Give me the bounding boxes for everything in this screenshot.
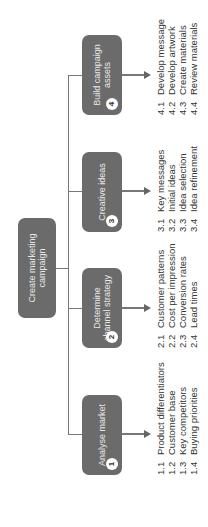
- task-node-2: Determine channel strategy 2: [82, 268, 122, 348]
- task-3-list: 3.1Key messages 3.2Initial ideas 3.3Idea…: [155, 146, 199, 232]
- list-item: 3.1Key messages: [155, 146, 166, 232]
- list-item: 4.3Create materials: [177, 19, 188, 115]
- list-item: 2.1Customer patterns: [155, 244, 166, 348]
- root-node: Create marketing campaign: [18, 218, 56, 318]
- list-item: 4.2Develop artwork: [166, 19, 177, 115]
- task-3-badge: 3: [106, 215, 118, 227]
- task-2-badge: 2: [106, 331, 118, 343]
- task-4-list: 4.1Develop message 4.2Develop artwork 4.…: [155, 19, 199, 115]
- list-item: 1.1Product differentiators: [155, 362, 166, 475]
- list-item: 4.1Develop message: [155, 19, 166, 115]
- task-3-arrow-line: [122, 190, 144, 192]
- list-item: 2.3Conversion rates: [177, 244, 188, 348]
- list-item: 2.2Cost per impression: [166, 244, 177, 348]
- task-node-3: Creative ideas 3: [82, 152, 122, 232]
- task-3-connector: [68, 191, 82, 192]
- bus-line: [68, 75, 69, 435]
- task-1-connector: [68, 434, 82, 435]
- list-item: 1.3Key competitors: [177, 362, 188, 475]
- diagram-canvas: Create marketing campaign Analyse market…: [0, 0, 208, 527]
- list-item: 3.3Idea selection: [177, 146, 188, 232]
- arrow-down-icon: [144, 430, 151, 438]
- task-2-connector: [68, 308, 82, 309]
- root-connector: [56, 268, 68, 269]
- task-4-badge: 4: [106, 98, 118, 110]
- task-2-list: 2.1Customer patterns 2.2Cost per impress…: [155, 244, 199, 348]
- list-item: 1.4Buying priorities: [188, 362, 199, 475]
- task-3-label: Creative ideas: [97, 163, 107, 221]
- arrow-down-icon: [144, 304, 151, 312]
- task-node-4: Build campaign assets 4: [82, 35, 122, 115]
- root-label: Create marketing campaign: [27, 222, 47, 314]
- task-1-arrow-line: [122, 433, 144, 435]
- list-item: 1.2Customer base: [166, 362, 177, 475]
- task-4-connector: [68, 75, 82, 76]
- task-2-arrow-line: [122, 307, 144, 309]
- task-node-1: Analyse market 1: [82, 395, 122, 475]
- list-item: 3.2Initial ideas: [166, 146, 177, 232]
- list-item: 3.4Idea refinement: [188, 146, 199, 232]
- list-item: 4.4Review materials: [188, 19, 199, 115]
- task-1-list: 1.1Product differentiators 1.2Customer b…: [155, 362, 199, 475]
- arrow-down-icon: [144, 71, 151, 79]
- arrow-down-icon: [144, 187, 151, 195]
- list-item: 2.4Lead times: [188, 244, 199, 348]
- task-1-badge: 1: [106, 458, 118, 470]
- task-1-label: Analyse market: [97, 404, 107, 466]
- task-4-arrow-line: [122, 74, 144, 76]
